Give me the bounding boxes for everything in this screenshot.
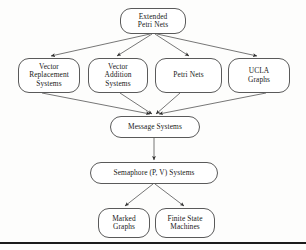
node-label-line: Message Systems	[128, 123, 182, 131]
node-label-line: Systems	[105, 80, 130, 88]
node-label-line: Semaphore (P, V) Systems	[113, 169, 194, 177]
edge-semaphore-to-finite	[155, 184, 184, 206]
node-extended-petri-nets[interactable]: Extended Petri Nets	[120, 8, 186, 34]
node-ucla-graphs[interactable]: UCLA Graphs	[228, 58, 290, 93]
node-label-line: Graphs	[248, 76, 270, 84]
node-label-line: Petri Nets	[138, 21, 168, 29]
node-message-systems[interactable]: Message Systems	[110, 116, 200, 138]
node-finite-state-machines[interactable]: Finite State Machines	[155, 208, 215, 238]
diagram-canvas: Extended Petri Nets Vector Replacement S…	[0, 0, 306, 250]
node-label-line: Machines	[170, 223, 200, 231]
edge-vas-to-message	[120, 93, 152, 114]
node-semaphore-systems[interactable]: Semaphore (P, V) Systems	[90, 162, 218, 184]
node-label-line: Graphs	[113, 223, 135, 231]
node-petri-nets[interactable]: Petri Nets	[155, 58, 222, 93]
node-label-line: Petri Nets	[173, 71, 203, 79]
edge-ucla-to-message	[159, 93, 266, 114]
node-marked-graphs[interactable]: Marked Graphs	[98, 208, 150, 238]
node-vector-replacement-systems[interactable]: Vector Replacement Systems	[18, 58, 80, 93]
page-baseline-divider	[0, 242, 306, 244]
node-label-line: Systems	[36, 80, 61, 88]
edge-vrs-to-message	[42, 93, 150, 114]
edge-semaphore-to-marked	[125, 184, 153, 206]
node-vector-addition-systems[interactable]: Vector Addition Systems	[88, 58, 148, 93]
